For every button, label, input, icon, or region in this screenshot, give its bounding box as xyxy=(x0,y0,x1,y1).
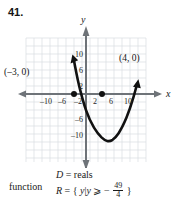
problem-number: 41. xyxy=(8,6,23,18)
range-set-open: = { xyxy=(62,185,80,196)
x-tick-label--2: –2 xyxy=(74,97,82,106)
y-tick-label--6: –6 xyxy=(68,115,83,124)
y-tick-label-10: 10 xyxy=(71,50,83,59)
point-label-right: (4, 0) xyxy=(119,53,140,63)
answer-block: function D = reals R = { y|y ⩾ − 494 } xyxy=(0,168,178,201)
y-tick-label-6: 6 xyxy=(71,66,83,75)
x-tick-label-6: 6 xyxy=(109,97,113,106)
y-axis-label: y xyxy=(81,14,85,25)
domain-value: = reals xyxy=(63,169,93,180)
point-marker-right xyxy=(99,91,105,97)
y-axis xyxy=(83,26,90,168)
x-axis-label: x xyxy=(166,88,170,99)
graph-figure: y x –10 –6 –2 2 6 10 10 6 2 –6 –10 (–3, … xyxy=(0,18,178,168)
coordinate-plane-svg xyxy=(0,18,178,168)
x-tick-label--10: –10 xyxy=(40,97,52,106)
x-tick-label-10: 10 xyxy=(124,97,132,106)
range-line: R = { y|y ⩾ − 494 } xyxy=(56,182,131,199)
curve-arrow-right xyxy=(133,79,141,88)
x-tick-label-2: 2 xyxy=(93,97,97,106)
domain-line: D = reals xyxy=(56,168,131,182)
range-relation: ⩾ − xyxy=(91,185,112,196)
y-tick-label--10: –10 xyxy=(66,131,83,140)
fraction-numerator: 49 xyxy=(113,182,123,190)
answer-domain-range: D = reals R = { y|y ⩾ − 494 } xyxy=(56,168,131,199)
y-tick-label-2: 2 xyxy=(71,82,83,91)
range-fraction: 494 xyxy=(113,182,123,199)
point-label-left: (–3, 0) xyxy=(4,67,29,77)
answer-classification: function xyxy=(9,181,42,192)
fraction-denominator: 4 xyxy=(113,190,123,199)
x-tick-label--6: –6 xyxy=(58,97,66,106)
range-set-close: } xyxy=(124,185,131,196)
